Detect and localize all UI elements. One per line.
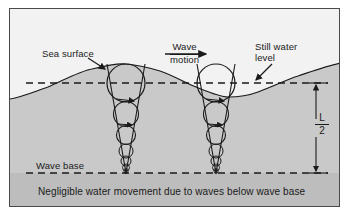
wave-diagram-canvas	[10, 9, 340, 207]
label-wave-motion: Wave motion	[170, 42, 199, 65]
water-fill	[10, 63, 340, 173]
label-depth-l-over-2: L 2	[313, 113, 331, 136]
label-sea-surface: Sea surface	[42, 49, 94, 60]
label-still-water-level: Still water level	[255, 42, 297, 63]
still-water-leader-arrow	[256, 64, 272, 80]
still-water-line-2: level	[255, 52, 275, 63]
wave-motion-line-1: Wave	[170, 42, 199, 53]
caption-text: Negligible water movement due to waves b…	[38, 187, 305, 198]
still-water-line-1: Still water	[255, 41, 297, 52]
wave-motion-line-2: motion	[170, 55, 199, 66]
depth-denominator: 2	[313, 126, 331, 136]
figure-root: Sea surface Still water level Wave motio…	[0, 0, 349, 215]
depth-numerator: L	[313, 113, 331, 123]
label-wave-base: Wave base	[36, 161, 84, 172]
figure-frame: Sea surface Still water level Wave motio…	[9, 8, 340, 207]
